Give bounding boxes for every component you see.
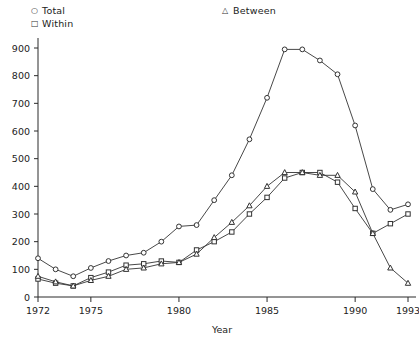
x-tick-label: 1993 — [396, 305, 419, 316]
data-point-square — [335, 180, 339, 184]
y-tick-label: 400 — [12, 181, 30, 192]
y-tick-label: 600 — [12, 126, 30, 137]
data-point-triangle — [35, 273, 40, 278]
plot-area: 0100200300400500600700800900 19721975198… — [0, 0, 419, 337]
data-point-circle — [388, 207, 393, 212]
data-point-triangle — [388, 265, 393, 270]
data-point-circle — [194, 223, 199, 228]
data-point-circle — [124, 253, 129, 258]
x-axis: 197219751980198519901993 — [26, 297, 419, 316]
data-point-square — [230, 230, 234, 234]
y-axis: 0100200300400500600700800900 — [12, 38, 38, 303]
y-tick-label: 500 — [12, 153, 30, 164]
data-point-triangle — [53, 279, 58, 284]
data-point-circle — [106, 259, 111, 264]
data-point-circle — [177, 224, 182, 229]
y-tick-label: 700 — [12, 98, 30, 109]
x-tick-label: 1985 — [255, 305, 279, 316]
data-point-circle — [353, 123, 358, 128]
data-point-triangle — [264, 183, 269, 188]
y-tick-label: 0 — [24, 292, 30, 303]
chart-container: ○ Total □ Within △ Between 0100200300400… — [0, 0, 419, 337]
data-point-circle — [370, 187, 375, 192]
data-point-square — [247, 212, 251, 216]
y-tick-label: 900 — [12, 43, 30, 54]
data-point-circle — [212, 198, 217, 203]
data-point-circle — [265, 95, 270, 100]
data-series-group — [35, 47, 410, 288]
data-point-circle — [406, 202, 411, 207]
data-point-square — [406, 212, 410, 216]
data-point-square — [353, 206, 357, 210]
data-point-circle — [335, 72, 340, 77]
data-point-circle — [71, 274, 76, 279]
y-tick-label: 300 — [12, 209, 30, 220]
y-tick-label: 100 — [12, 264, 30, 275]
data-point-circle — [318, 58, 323, 63]
data-point-circle — [229, 173, 234, 178]
y-tick-label: 800 — [12, 70, 30, 81]
data-point-circle — [88, 266, 93, 271]
y-tick-label: 200 — [12, 236, 30, 247]
x-tick-label: 1990 — [343, 305, 367, 316]
data-point-circle — [247, 137, 252, 142]
series-total — [36, 47, 411, 279]
data-point-circle — [141, 250, 146, 255]
x-tick-label: 1980 — [167, 305, 191, 316]
data-point-circle — [300, 47, 305, 52]
data-point-circle — [282, 47, 287, 52]
data-point-triangle — [282, 170, 287, 175]
x-tick-label: 1972 — [26, 305, 50, 316]
data-point-square — [282, 176, 286, 180]
data-point-triangle — [335, 172, 340, 177]
data-point-square — [388, 221, 392, 225]
data-point-circle — [53, 267, 58, 272]
x-axis-title: Year — [211, 324, 232, 335]
x-tick-label: 1975 — [79, 305, 103, 316]
data-point-square — [265, 195, 269, 199]
data-point-square — [212, 239, 216, 243]
data-point-circle — [159, 239, 164, 244]
data-point-circle — [36, 256, 41, 261]
